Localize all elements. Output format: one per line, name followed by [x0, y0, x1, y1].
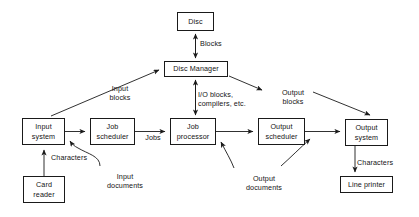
node-line-printer[interactable]: Line printer: [340, 176, 393, 193]
edge-label-io-blocks: I/O blocks, compilers, etc.: [198, 90, 256, 108]
edge-label-characters-output: Characters: [357, 158, 405, 167]
node-disc-manager[interactable]: Disc Manager: [164, 61, 228, 77]
edge-label-characters-input: Characters: [51, 153, 97, 162]
node-disc-manager-label: Disc Manager: [173, 64, 219, 73]
node-input-system[interactable]: Input system: [22, 118, 65, 145]
edge-label-blocks: Blocks: [200, 39, 240, 48]
node-disc[interactable]: Disc: [177, 12, 214, 31]
node-disc-label: Disc: [188, 17, 202, 26]
node-input-system-label: Input system: [32, 122, 55, 140]
node-output-system[interactable]: Output system: [345, 119, 388, 146]
node-line-printer-label: Line printer: [348, 180, 385, 189]
node-card-reader[interactable]: Card reader: [23, 176, 65, 203]
edge-label-output-blocks: Output blocks: [273, 88, 313, 106]
diagram-canvas: Disc Disc Manager Input system Job sched…: [0, 0, 419, 217]
edge-manager-to-output-diagonal-a: [229, 76, 262, 90]
edge-label-input-documents: Input documents: [98, 172, 152, 190]
node-job-scheduler[interactable]: Job scheduler: [90, 118, 135, 145]
node-job-processor-label: Job processor: [177, 122, 209, 140]
edge-outputdocs-curve-processor: [221, 142, 234, 168]
node-output-system-label: Output system: [355, 123, 378, 141]
edge-label-output-documents: Output documents: [236, 174, 292, 192]
node-job-scheduler-label: Job scheduler: [96, 122, 128, 140]
edge-label-jobs: Jobs: [139, 133, 167, 142]
edge-label-input-blocks: Input blocks: [100, 84, 140, 102]
node-output-scheduler[interactable]: Output scheduler: [258, 118, 305, 145]
node-output-scheduler-label: Output scheduler: [265, 122, 297, 140]
node-job-processor[interactable]: Job processor: [170, 118, 216, 145]
edge-manager-to-output-diagonal-b: [313, 92, 370, 115]
node-card-reader-label: Card reader: [33, 180, 54, 198]
